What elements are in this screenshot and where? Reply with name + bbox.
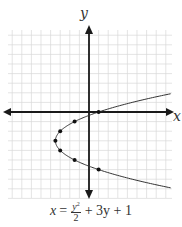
equation-fraction: y2 2 — [71, 199, 80, 223]
data-point-marker — [97, 168, 101, 172]
y-axis-label: y — [79, 5, 89, 21]
equation-lhs: x — [50, 203, 56, 219]
axes — [3, 25, 174, 199]
equation-equals: = — [59, 203, 67, 219]
data-point-marker — [53, 139, 57, 143]
grid-lines — [8, 30, 172, 198]
data-point-marker — [73, 120, 77, 124]
data-point-marker — [97, 110, 101, 114]
graph: x y — [0, 0, 182, 200]
equation-caption: x = y2 2 + 3y + 1 — [0, 196, 182, 226]
data-point-marker — [58, 148, 62, 152]
fraction-numerator: y2 — [71, 199, 80, 213]
equation-rest: + 3y + 1 — [85, 203, 132, 219]
data-point-marker — [58, 129, 62, 133]
data-point-marker — [73, 158, 77, 162]
x-axis-label: x — [173, 108, 181, 124]
fraction-denominator: 2 — [73, 213, 78, 223]
